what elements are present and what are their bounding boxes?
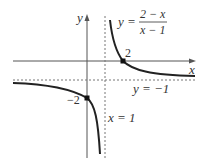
equation-numerator: 2 − x	[140, 7, 166, 21]
equation-lhs: y =	[116, 14, 136, 29]
equation-label: y = 2 − x x − 1	[116, 7, 167, 37]
y-axis-label: y	[75, 10, 83, 25]
y-intercept-point	[85, 96, 90, 101]
x-axis-label: x	[188, 62, 195, 77]
y-intercept-label: −2	[67, 93, 80, 107]
x-intercept-label: 2	[125, 46, 131, 60]
vertical-asymptote-label: x = 1	[107, 110, 136, 125]
y-axis-arrow-icon	[85, 14, 90, 21]
horizontal-asymptote-label: y = −1	[131, 81, 169, 96]
equation-denominator: x − 1	[139, 23, 165, 37]
function-graph: y x 2 −2 y = 2 − x x − 1 y = −1 x = 1	[0, 0, 202, 158]
y-axis	[85, 14, 90, 158]
